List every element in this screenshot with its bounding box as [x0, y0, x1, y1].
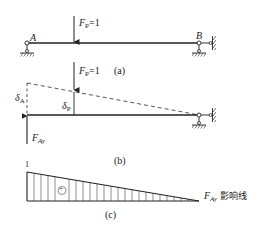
caption-a: (a): [114, 66, 125, 76]
influence-line-top: [27, 172, 199, 201]
delta-a-label: δA: [15, 93, 25, 105]
delta-p-label: δP: [62, 101, 71, 113]
force-label-b: FP=1: [79, 66, 100, 78]
deflected-shape-dashed: [27, 83, 199, 115]
ordinate-one-label: 1: [25, 161, 29, 169]
panel-a: [20, 16, 216, 57]
support-b-label: B: [196, 31, 202, 41]
panel-c-influence-line: [27, 172, 199, 201]
positive-sign-label: +: [59, 186, 63, 193]
support-a-label: A: [30, 33, 36, 43]
caption-b: (b): [114, 156, 126, 166]
force-label-a: FP=1: [79, 18, 100, 30]
support-b2-pin-icon: [192, 108, 216, 129]
caption-c: (c): [105, 210, 116, 220]
influence-line-label: FAy 影响线: [204, 191, 247, 203]
reaction-label: FAy: [32, 133, 45, 145]
